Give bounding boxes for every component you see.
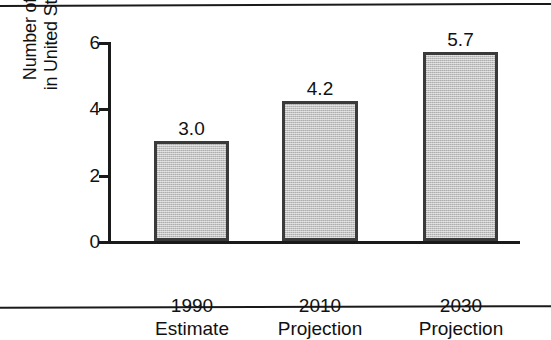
y-axis-tick-label-2: 2: [60, 166, 100, 185]
y-axis-tick-6: [99, 42, 109, 45]
y-axis-tick-label-6: 6: [60, 33, 100, 52]
x-axis-line: [108, 241, 520, 244]
x-axis-label-1990: 1990 Estimate: [144, 294, 240, 340]
x-axis-label-2010-year: 2010: [271, 294, 369, 317]
x-axis-label-2030-sub: Projection: [412, 317, 510, 340]
bar-value-2010: 4.2: [282, 79, 358, 98]
y-axis-tick-2: [99, 175, 109, 178]
bar-2010[interactable]: [282, 101, 358, 241]
x-axis-label-2030-year: 2030: [412, 294, 510, 317]
bar-value-2030: 5.7: [423, 30, 498, 49]
x-axis-label-2030: 2030 Projection: [412, 294, 510, 340]
y-axis-tick-label-4: 4: [60, 99, 100, 118]
y-axis-title-line1: Number of CHF Cases: [20, 0, 41, 80]
y-axis-tick-label-0: 0: [60, 232, 100, 251]
x-axis-label-2010: 2010 Projection: [271, 294, 369, 340]
y-axis-title-line2: in United States (millions): [41, 0, 62, 90]
page-rule-top: [0, 3, 551, 7]
plot-area: 6 4 2 0 3.0 4.2 5.7 1990 Estimate 2010 P…: [108, 42, 520, 244]
bar-2030[interactable]: [423, 52, 498, 241]
x-axis-label-1990-year: 1990: [144, 294, 240, 317]
bar-1990[interactable]: [154, 141, 229, 241]
y-axis-tick-4: [99, 108, 109, 111]
bar-value-1990: 3.0: [154, 119, 229, 138]
y-axis-tick-0: [99, 241, 109, 244]
x-axis-label-2010-sub: Projection: [271, 317, 369, 340]
y-axis-line: [108, 42, 111, 243]
x-axis-label-1990-sub: Estimate: [144, 317, 240, 340]
